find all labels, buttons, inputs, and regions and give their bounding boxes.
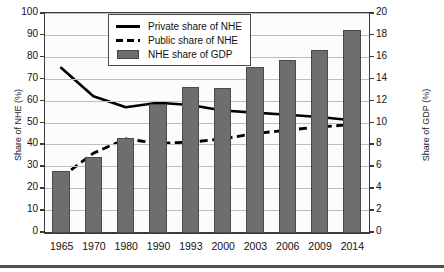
y-tick-label-right: 20: [376, 7, 402, 17]
y-tick-mark-right: [370, 78, 374, 80]
y-tick-label-right: 2: [376, 204, 402, 214]
bar-1980: [117, 138, 134, 233]
y-tick-label-left: 50: [8, 117, 38, 127]
y-tick-label-right: 16: [376, 51, 402, 61]
y-tick-label-left: 40: [8, 138, 38, 148]
legend-label: Private share of NHE: [148, 21, 242, 32]
y-tick-label-right: 14: [376, 73, 402, 83]
y-tick-label-right: 4: [376, 182, 402, 192]
legend-item-1: Public share of NHE: [115, 33, 242, 47]
y-tick-label-left: 90: [8, 29, 38, 39]
y-tick-label-right: 18: [376, 29, 402, 39]
y-tick-mark-right: [370, 209, 374, 211]
legend-label: NHE share of GDP: [148, 49, 232, 60]
y-tick-label-right: 6: [376, 160, 402, 170]
bar-2009: [311, 50, 328, 233]
filled-square-icon: [115, 48, 141, 60]
bar-2014: [343, 30, 360, 233]
y-axis-right-title: Share of GDP (%): [421, 75, 431, 175]
y-tick-label-left: 100: [8, 7, 38, 17]
y-tick-label-left: 20: [8, 182, 38, 192]
x-tick-label-2014: 2014: [332, 240, 372, 252]
bar-1993: [182, 87, 199, 233]
y-tick-label-left: 80: [8, 51, 38, 61]
y-tick-mark-right: [370, 143, 374, 145]
y-tick-label-left: 30: [8, 160, 38, 170]
y-tick-label-left: 70: [8, 73, 38, 83]
y-tick-label-right: 12: [376, 95, 402, 105]
y-tick-label-left: 60: [8, 95, 38, 105]
bar-2003: [246, 67, 263, 233]
y-tick-mark-right: [370, 187, 374, 189]
legend-item-0: Private share of NHE: [115, 19, 242, 33]
bar-1965: [52, 171, 69, 233]
y-tick-label-right: 8: [376, 138, 402, 148]
y-tick-label-left: 0: [8, 226, 38, 236]
y-tick-label-right: 10: [376, 117, 402, 127]
chart-figure: Share of NHE (%) Share of GDP (%) 100908…: [0, 0, 444, 272]
legend-item-2: NHE share of GDP: [115, 47, 242, 61]
y-tick-mark-right: [370, 231, 374, 233]
bar-1970: [85, 157, 102, 233]
y-tick-mark-right: [370, 122, 374, 124]
y-tick-mark-right: [370, 12, 374, 14]
y-tick-mark-right: [370, 165, 374, 167]
y-tick-label-right: 0: [376, 226, 402, 236]
line-private-share-of-nhe: [61, 68, 352, 121]
legend-label: Public share of NHE: [148, 35, 238, 46]
y-tick-label-left: 10: [8, 204, 38, 214]
line-public-share-of-nhe: [61, 125, 352, 178]
bar-1990: [149, 104, 166, 233]
y-tick-mark-right: [370, 56, 374, 58]
chart-legend: Private share of NHEPublic share of NHEN…: [108, 14, 251, 66]
bar-2000: [214, 88, 231, 233]
y-tick-mark-right: [370, 100, 374, 102]
solid-line-icon: [115, 20, 141, 32]
y-tick-mark-right: [370, 34, 374, 36]
bottom-divider: [0, 265, 444, 268]
dashed-line-icon: [115, 34, 141, 46]
bar-2006: [279, 60, 296, 233]
